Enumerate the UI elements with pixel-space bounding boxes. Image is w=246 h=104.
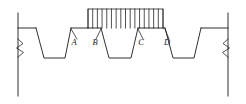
- point-label-a: A: [70, 37, 77, 47]
- leader-lines-group: [71, 29, 169, 39]
- point-label-c: C: [138, 37, 144, 47]
- notch-trapezoid-2: [101, 28, 138, 58]
- boundary-lines-group: [17, 13, 230, 96]
- point-label-d: D: [163, 37, 171, 47]
- notch-trapezoid-3: [165, 28, 201, 58]
- beam-elevation-diagram: A B C D: [0, 0, 246, 104]
- distributed-load-group: [88, 9, 163, 28]
- point-label-b: B: [92, 37, 97, 47]
- diagram-canvas: A B C D: [0, 0, 246, 104]
- notches-group: [36, 28, 201, 58]
- notch-trapezoid-1: [36, 28, 71, 58]
- load-hatch-lines: [88, 9, 163, 28]
- point-labels-group: A B C D: [70, 37, 171, 47]
